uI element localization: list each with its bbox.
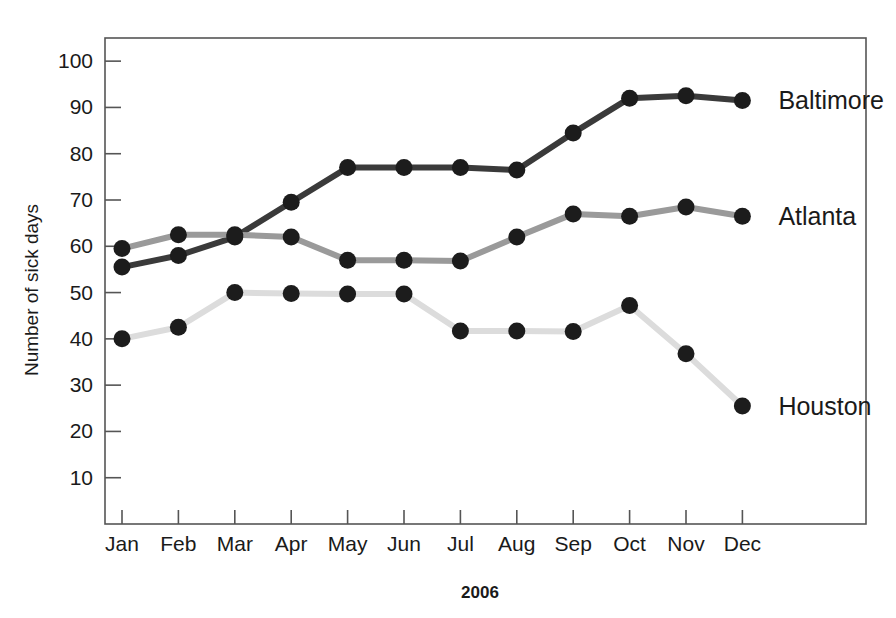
x-tick-label-jun: Jun [387,532,421,555]
x-tick-label-mar: Mar [217,532,253,555]
data-point-atlanta-sep [565,205,582,222]
data-point-baltimore-dec [734,92,751,109]
y-tick-label-40: 40 [70,327,93,350]
y-tick-label-70: 70 [70,188,93,211]
series-label-baltimore: Baltimore [778,86,884,114]
y-tick-label-60: 60 [70,234,93,257]
data-point-atlanta-jan [114,240,131,257]
x-tick-label-jul: Jul [447,532,474,555]
x-tick-label-may: May [328,532,368,555]
data-point-houston-jul [452,322,469,339]
data-point-baltimore-may [339,159,356,176]
y-tick-label-30: 30 [70,373,93,396]
data-point-houston-oct [621,297,638,314]
x-tick-label-oct: Oct [613,532,646,555]
data-point-atlanta-dec [734,208,751,225]
y-axis-title: Number of sick days [21,204,42,376]
data-point-baltimore-feb [170,247,187,264]
data-point-baltimore-apr [283,194,300,211]
y-tick-label-80: 80 [70,142,93,165]
data-point-houston-nov [678,345,695,362]
data-point-baltimore-jun [396,159,413,176]
y-tick-label-20: 20 [70,419,93,442]
data-point-houston-sep [565,323,582,340]
x-tick-label-sep: Sep [555,532,592,555]
data-point-atlanta-jun [396,252,413,269]
data-point-baltimore-aug [508,161,525,178]
x-tick-label-feb: Feb [160,532,196,555]
data-point-houston-aug [508,322,525,339]
series-label-houston: Houston [778,392,871,420]
data-point-atlanta-aug [508,229,525,246]
data-point-atlanta-apr [283,229,300,246]
y-tick-label-100: 100 [58,49,93,72]
x-axis-title: 2006 [461,583,499,602]
data-point-atlanta-feb [170,226,187,243]
x-tick-label-aug: Aug [498,532,535,555]
data-point-baltimore-nov [678,87,695,104]
data-point-baltimore-sep [565,124,582,141]
data-point-atlanta-oct [621,208,638,225]
y-tick-label-90: 90 [70,95,93,118]
data-point-atlanta-jul [452,253,469,270]
data-point-atlanta-nov [678,198,695,215]
x-tick-label-jan: Jan [105,532,139,555]
data-point-houston-mar [226,284,243,301]
x-tick-label-nov: Nov [667,532,705,555]
data-point-houston-dec [734,397,751,414]
data-point-baltimore-oct [621,90,638,107]
data-point-houston-jan [114,330,131,347]
data-point-atlanta-may [339,252,356,269]
data-point-houston-jun [396,285,413,302]
chart-canvas: 102030405060708090100 JanFebMarAprMayJun… [0,0,896,618]
y-tick-label-50: 50 [70,281,93,304]
data-point-atlanta-mar [226,226,243,243]
data-point-houston-apr [283,285,300,302]
data-point-houston-feb [170,319,187,336]
y-tick-label-10: 10 [70,466,93,489]
data-point-houston-may [339,285,356,302]
chart-background [0,0,896,618]
line-chart: 102030405060708090100 JanFebMarAprMayJun… [0,0,896,618]
data-point-baltimore-jan [114,259,131,276]
data-point-baltimore-jul [452,159,469,176]
x-tick-label-apr: Apr [275,532,308,555]
x-tick-label-dec: Dec [724,532,761,555]
series-label-atlanta: Atlanta [778,202,856,230]
